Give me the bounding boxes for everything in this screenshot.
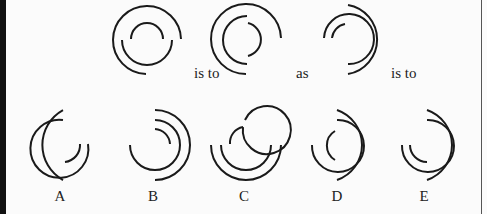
option-e-label[interactable]: E <box>414 188 434 205</box>
option-d-label[interactable]: D <box>327 188 347 205</box>
option-b-figure-icon <box>130 110 190 180</box>
connector-as: as <box>296 65 309 82</box>
figure-2-concentric-arcs-icon <box>211 4 281 74</box>
option-a-figure-icon <box>30 110 88 180</box>
connector-is-to-1: is to <box>194 65 219 82</box>
option-c-label[interactable]: C <box>234 188 254 205</box>
option-b-label[interactable]: B <box>143 188 163 205</box>
connector-is-to-2: is to <box>391 65 416 82</box>
option-e-figure-icon <box>402 110 454 180</box>
option-d-figure-icon <box>312 110 364 180</box>
figure-3-concentric-arcs-icon <box>324 5 377 74</box>
figure-1-concentric-arcs-icon <box>113 6 181 74</box>
option-a-label[interactable]: A <box>50 188 70 205</box>
option-c-figure-icon <box>211 106 291 180</box>
figures-canvas <box>0 0 487 214</box>
